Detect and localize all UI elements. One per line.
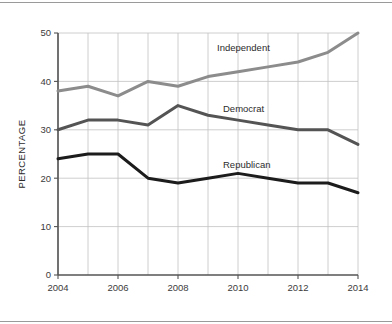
series-label-republican: Republican xyxy=(223,159,271,170)
chart-figure: 01020304050 200420062008201020122014 Ind… xyxy=(0,0,392,324)
y-tick-label-50: 50 xyxy=(40,27,51,38)
x-tick-label-2012: 2012 xyxy=(287,282,308,293)
y-tick-label-40: 40 xyxy=(40,76,51,87)
x-axis-tick-labels: 200420062008201020122014 xyxy=(47,282,368,293)
y-axis-tick-labels: 01020304050 xyxy=(40,27,51,280)
x-tick-label-2010: 2010 xyxy=(227,282,248,293)
series-label-group: IndependentDemocratRepublican xyxy=(217,42,271,169)
y-tick-label-10: 10 xyxy=(40,221,51,232)
x-tick-label-2004: 2004 xyxy=(47,282,68,293)
line-chart: 01020304050 200420062008201020122014 Ind… xyxy=(0,0,392,324)
y-tick-label-20: 20 xyxy=(40,173,51,184)
x-tick-label-2006: 2006 xyxy=(107,282,128,293)
y-tick-label-30: 30 xyxy=(40,124,51,135)
series-label-democrat: Democrat xyxy=(223,103,265,114)
y-tick-label-0: 0 xyxy=(46,269,51,280)
y-axis-title: PERCENTAGE xyxy=(16,120,27,189)
series-label-independent: Independent xyxy=(217,42,270,53)
x-tick-label-2014: 2014 xyxy=(347,282,368,293)
x-tick-label-2008: 2008 xyxy=(167,282,188,293)
